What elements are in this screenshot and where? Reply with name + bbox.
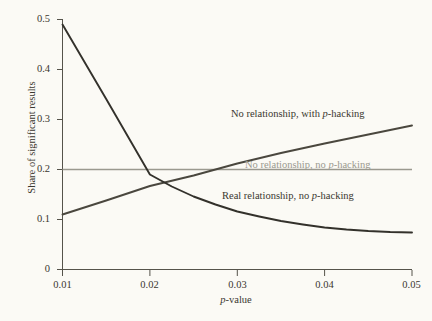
x-tick-label-0.01: 0.01 — [37, 279, 88, 290]
annotation-suffix: -hacking — [317, 190, 354, 201]
y-axis-title-text: Share of significant results — [26, 81, 37, 193]
y-axis-title: Share of significant results — [26, 58, 37, 218]
annotation-suffix: -hacking — [334, 159, 371, 170]
x-tick-label-0.02: 0.02 — [124, 279, 175, 290]
annotation-prefix: No relationship, no — [245, 159, 328, 170]
x-axis-title-suffix: -value — [226, 294, 252, 305]
series-annotation-no-relationship-with-p-hacking: No relationship, with p-hacking — [231, 108, 365, 119]
series-annotation-no-relationship-no-p-hacking: No relationship, no p-hacking — [245, 159, 370, 170]
chart-container: 0.5 0.4 0.3 0.2 0.1 0 0.01 0.02 0.03 0.0… — [0, 0, 432, 321]
y-tick-label-0: 0 — [6, 263, 50, 274]
x-tick-label-0.04: 0.04 — [299, 279, 350, 290]
series-line-real-relationship-no-p-hacking — [63, 25, 413, 233]
x-tick-label-0.03: 0.03 — [212, 279, 263, 290]
series-annotation-real-relationship-no-p-hacking: Real relationship, no p-hacking — [222, 190, 354, 201]
y-tick-label-0.5: 0.5 — [6, 13, 50, 24]
annotation-suffix: -hacking — [328, 108, 365, 119]
y-axis-ticks — [57, 20, 63, 270]
x-axis-title: p-value — [62, 294, 410, 305]
annotation-prefix: Real relationship, no — [222, 190, 312, 201]
x-axis-ticks — [63, 270, 413, 276]
annotation-prefix: No relationship, with — [231, 108, 323, 119]
x-tick-label-0.05: 0.05 — [386, 279, 432, 290]
